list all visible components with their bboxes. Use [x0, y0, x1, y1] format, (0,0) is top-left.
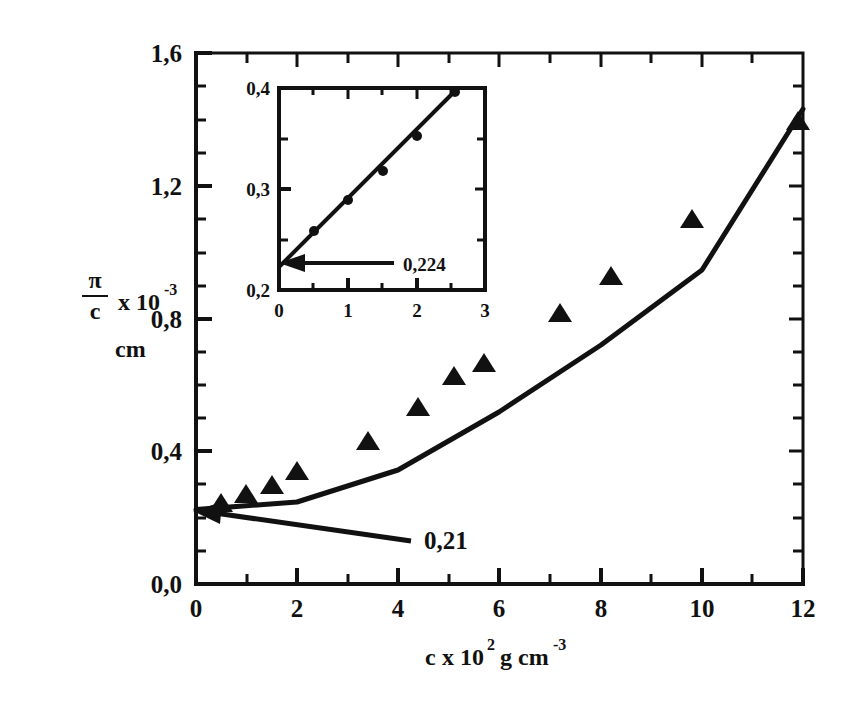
- main-y-tick-label-4: 1,6: [151, 40, 182, 67]
- main-x-tick-label-5: 10: [690, 595, 715, 622]
- inset-data-point-marker: [450, 87, 460, 97]
- osmotic-pressure-chart: 0,0 0,4 0,8 1,2 1,6 0 2 4 6 8 10 12: [0, 0, 856, 712]
- inset-data-point-marker: [309, 226, 319, 236]
- main-x-tick-label-0: 0: [190, 595, 203, 622]
- x-axis-variable: c: [425, 644, 436, 670]
- y-axis-exponent: -3: [164, 281, 177, 298]
- inset-y-tick-label-1: 0,3: [246, 179, 270, 200]
- x-axis-exponent: 2: [487, 636, 495, 653]
- main-x-tick-label-1: 2: [291, 595, 304, 622]
- y-axis-unit: cm: [115, 336, 146, 362]
- inset-x-tick-label-2: 2: [412, 300, 422, 321]
- y-axis-base: 10: [136, 289, 160, 315]
- x-axis-base: 10: [460, 644, 484, 670]
- inset-x-tick-label-1: 1: [343, 300, 353, 321]
- x-axis-times-symbol: x: [442, 644, 454, 670]
- inset-data-point-marker: [343, 195, 353, 205]
- x-axis-unit: g cm: [500, 644, 549, 670]
- inset-data-point-marker: [412, 131, 422, 141]
- figure-container: 0,0 0,4 0,8 1,2 1,6 0 2 4 6 8 10 12: [0, 0, 856, 712]
- y-axis-times-symbol: x: [118, 289, 130, 315]
- inset-x-tick-label-0: 0: [274, 300, 284, 321]
- main-x-tick-label-6: 12: [791, 595, 816, 622]
- inset-annotation-value-label: 0,224: [403, 254, 446, 275]
- y-axis-numerator: π: [88, 267, 101, 293]
- main-x-tick-label-4: 8: [595, 595, 608, 622]
- inset-data-point-marker: [378, 166, 388, 176]
- inset-x-tick-label-3: 3: [480, 300, 490, 321]
- main-y-tick-label-3: 1,2: [151, 173, 182, 200]
- x-axis-unit-exponent: -3: [553, 636, 566, 653]
- annotation-value-label: 0,21: [424, 527, 468, 554]
- y-axis-denominator: c: [90, 298, 101, 324]
- main-y-tick-label-0: 0,0: [151, 571, 182, 598]
- inset-y-tick-label-0: 0,2: [246, 280, 270, 301]
- main-x-tick-label-3: 6: [493, 595, 506, 622]
- main-y-tick-label-1: 0,4: [151, 438, 183, 465]
- main-x-tick-label-2: 4: [392, 595, 405, 622]
- inset-y-tick-label-2: 0,4: [246, 78, 270, 99]
